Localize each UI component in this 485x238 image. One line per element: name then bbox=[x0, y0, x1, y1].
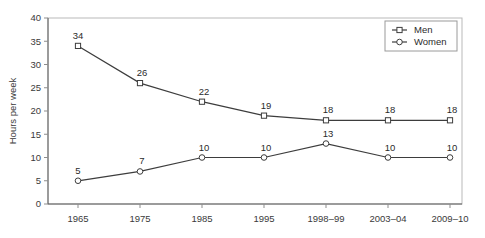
line-chart-figure: 0510152025303540Hours per week1965197519… bbox=[0, 0, 485, 238]
x-tick-label: 2009–10 bbox=[432, 213, 469, 224]
data-point-label-women: 5 bbox=[75, 165, 80, 176]
data-point-marker-women bbox=[385, 155, 391, 161]
y-axis-title: Hours per week bbox=[7, 77, 18, 144]
data-point-marker-men bbox=[385, 118, 390, 123]
data-point-label-men: 18 bbox=[385, 104, 396, 115]
x-tick-label: 1998–99 bbox=[308, 213, 345, 224]
x-tick-label: 1965 bbox=[67, 213, 88, 224]
data-point-label-men: 34 bbox=[73, 30, 84, 41]
data-point-marker-women bbox=[323, 141, 329, 147]
data-point-label-men: 18 bbox=[447, 104, 458, 115]
y-tick-label: 40 bbox=[30, 12, 41, 23]
data-point-marker-men bbox=[261, 113, 266, 118]
y-tick-label: 10 bbox=[30, 152, 41, 163]
data-point-marker-women bbox=[199, 155, 205, 161]
y-tick-label: 30 bbox=[30, 59, 41, 70]
data-point-marker-women bbox=[447, 155, 453, 161]
data-point-label-men: 22 bbox=[199, 86, 210, 97]
x-tick-label: 1975 bbox=[129, 213, 150, 224]
y-tick-label: 5 bbox=[36, 175, 41, 186]
data-point-label-men: 26 bbox=[137, 67, 148, 78]
data-point-label-women: 7 bbox=[139, 155, 144, 166]
legend-label-men: Men bbox=[414, 24, 432, 35]
x-tick-label: 2003–04 bbox=[370, 213, 407, 224]
legend-marker-men bbox=[397, 27, 402, 32]
data-point-label-women: 10 bbox=[385, 142, 396, 153]
x-tick-label: 1985 bbox=[191, 213, 212, 224]
data-point-marker-women bbox=[261, 155, 267, 161]
data-point-marker-men bbox=[323, 118, 328, 123]
y-tick-label: 20 bbox=[30, 105, 41, 116]
y-tick-label: 35 bbox=[30, 36, 41, 47]
data-point-label-men: 18 bbox=[323, 104, 334, 115]
data-point-marker-men bbox=[199, 99, 204, 104]
data-point-label-women: 10 bbox=[199, 142, 210, 153]
chart-canvas: 0510152025303540Hours per week1965197519… bbox=[0, 0, 485, 238]
data-point-marker-men bbox=[75, 43, 80, 48]
legend-label-women: Women bbox=[414, 36, 447, 47]
data-point-marker-women bbox=[137, 169, 143, 175]
data-point-label-women: 10 bbox=[261, 142, 272, 153]
data-point-marker-women bbox=[75, 178, 81, 184]
data-point-marker-men bbox=[137, 81, 142, 86]
data-point-label-men: 19 bbox=[261, 100, 272, 111]
data-point-marker-men bbox=[447, 118, 452, 123]
x-tick-label: 1995 bbox=[253, 213, 274, 224]
data-point-label-women: 13 bbox=[323, 128, 334, 139]
legend-marker-women bbox=[397, 39, 403, 45]
y-tick-label: 25 bbox=[30, 82, 41, 93]
y-tick-label: 0 bbox=[36, 198, 41, 209]
data-point-label-women: 10 bbox=[447, 142, 458, 153]
y-tick-label: 15 bbox=[30, 129, 41, 140]
